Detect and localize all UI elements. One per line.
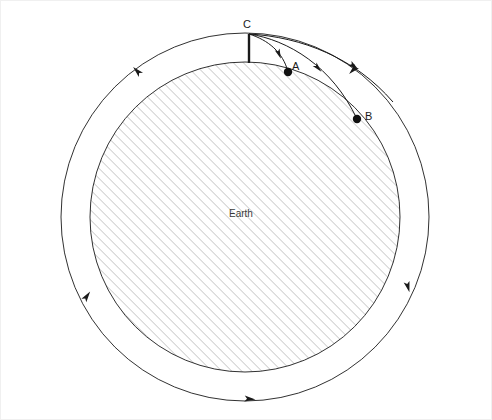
point-marker-B <box>353 115 361 123</box>
trajectory-to-B-arrowhead <box>313 63 324 74</box>
diagram-canvas: C A B Earth <box>0 0 492 420</box>
orbit-arrow-lower-left <box>81 290 92 302</box>
earth-label: Earth <box>229 209 253 219</box>
point-marker-A <box>284 68 292 76</box>
orbit-arrow-lower-right <box>404 281 413 293</box>
point-label-A: A <box>292 61 299 72</box>
point-label-C: C <box>243 19 251 30</box>
point-label-B: B <box>365 111 372 122</box>
